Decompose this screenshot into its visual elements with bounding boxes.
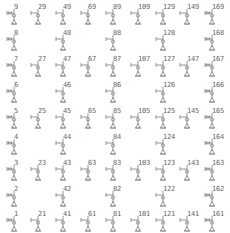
grid-cell-145: 145	[178, 108, 202, 130]
cell-label: 163	[212, 160, 224, 167]
cell-label: 5	[14, 108, 18, 115]
cell-label: 105	[138, 108, 150, 115]
grid-cell-63: 63	[79, 160, 103, 182]
cell-label: 44	[63, 134, 71, 141]
grid-cell-21: 21	[29, 211, 53, 233]
cell-label: 61	[88, 211, 96, 218]
grid-cell-165: 165	[203, 108, 227, 130]
cell-label: 166	[212, 82, 224, 89]
cell-label: 41	[63, 211, 71, 218]
cell-label: 143	[187, 160, 199, 167]
grid-cell-29: 29	[29, 4, 53, 26]
grid-cell-161: 161	[203, 211, 227, 233]
cell-label: 124	[163, 134, 175, 141]
grid-cell-4: 4	[5, 134, 29, 156]
cell-label: 126	[163, 82, 175, 89]
cell-label: 63	[88, 160, 96, 167]
cell-label: 46	[63, 82, 71, 89]
cell-label: 128	[163, 30, 175, 37]
station-symbol-icon	[5, 214, 21, 232]
cell-label: 83	[113, 160, 121, 167]
grid-cell-46: 46	[54, 82, 78, 104]
cell-label: 161	[212, 211, 224, 218]
cell-label: 47	[63, 56, 71, 63]
cell-label: 69	[88, 4, 96, 11]
grid-cell-89: 89	[104, 4, 128, 26]
cell-label: 8	[14, 30, 18, 37]
grid-cell-9: 9	[5, 4, 29, 26]
cell-label: 89	[113, 4, 121, 11]
grid-cell-23: 23	[29, 160, 53, 182]
station-symbol-icon	[5, 33, 21, 51]
cell-label: 145	[187, 108, 199, 115]
grid-cell-65: 65	[79, 108, 103, 130]
cell-label: 107	[138, 56, 150, 63]
grid-cell-49: 49	[54, 4, 78, 26]
grid-cell-83: 83	[104, 160, 128, 182]
grid-cell-69: 69	[79, 4, 103, 26]
cell-label: 109	[138, 4, 150, 11]
cell-label: 65	[88, 108, 96, 115]
grid-cell-48: 48	[54, 30, 78, 52]
cell-label: 45	[63, 108, 71, 115]
cell-label: 165	[212, 108, 224, 115]
grid-cell-167: 167	[203, 56, 227, 78]
grid-cell-44: 44	[54, 134, 78, 156]
grid-cell-101: 101	[129, 211, 153, 233]
cell-label: 9	[14, 4, 18, 11]
grid-cell-164: 164	[203, 134, 227, 156]
grid-cell-43: 43	[54, 160, 78, 182]
grid-cell-27: 27	[29, 56, 53, 78]
grid-cell-162: 162	[203, 186, 227, 208]
grid-cell-6: 6	[5, 82, 29, 104]
cell-label: 103	[138, 160, 150, 167]
cell-label: 147	[187, 56, 199, 63]
cell-label: 48	[63, 30, 71, 37]
grid-cell-5: 5	[5, 108, 29, 130]
cell-label: 123	[163, 160, 175, 167]
cell-label: 164	[212, 134, 224, 141]
cell-label: 125	[163, 108, 175, 115]
grid-cell-128: 128	[154, 30, 178, 52]
station-symbol-icon	[5, 189, 21, 207]
cell-label: 7	[14, 56, 18, 63]
grid-cell-147: 147	[178, 56, 202, 78]
grid-cell-149: 149	[178, 4, 202, 26]
cell-label: 129	[163, 4, 175, 11]
grid-cell-109: 109	[129, 4, 153, 26]
cell-label: 21	[38, 211, 46, 218]
grid-cell-143: 143	[178, 160, 202, 182]
grid-cell-127: 127	[154, 56, 178, 78]
cell-label: 127	[163, 56, 175, 63]
grid-cell-105: 105	[129, 108, 153, 130]
grid-cell-123: 123	[154, 160, 178, 182]
station-symbol-icon	[5, 111, 21, 129]
cell-label: 87	[113, 56, 121, 63]
grid-cell-121: 121	[154, 211, 178, 233]
cell-label: 27	[38, 56, 46, 63]
grid-cell-87: 87	[104, 56, 128, 78]
grid-cell-124: 124	[154, 134, 178, 156]
grid-cell-126: 126	[154, 82, 178, 104]
cell-label: 2	[14, 186, 18, 193]
grid-cell-42: 42	[54, 186, 78, 208]
cell-label: 84	[113, 134, 121, 141]
cell-label: 85	[113, 108, 121, 115]
cell-label: 141	[187, 211, 199, 218]
grid-cell-45: 45	[54, 108, 78, 130]
grid-cell-129: 129	[154, 4, 178, 26]
cell-label: 25	[38, 108, 46, 115]
cell-label: 121	[163, 211, 175, 218]
cell-label: 82	[113, 186, 121, 193]
cell-label: 67	[88, 56, 96, 63]
grid-cell-163: 163	[203, 160, 227, 182]
grid-cell-84: 84	[104, 134, 128, 156]
cell-label: 81	[113, 211, 121, 218]
grid-cell-3: 3	[5, 160, 29, 182]
station-symbol-icon	[5, 137, 21, 155]
grid-cell-8: 8	[5, 30, 29, 52]
cell-label: 42	[63, 186, 71, 193]
cell-label: 122	[163, 186, 175, 193]
station-symbol-icon	[5, 163, 21, 181]
grid-cell-7: 7	[5, 56, 29, 78]
